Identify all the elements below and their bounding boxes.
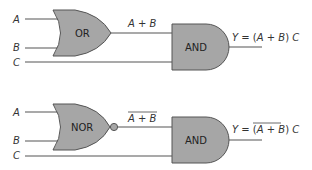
input-b-label: B	[13, 42, 20, 53]
nor-gate-label: NOR	[71, 122, 93, 133]
input-c-label-2: C	[13, 150, 20, 161]
circuit-or-and: A B C OR A + B AND Y = (A + B) C	[12, 10, 299, 70]
input-a-label: A	[12, 14, 20, 25]
input-a-label-2: A	[12, 107, 20, 118]
input-c-label: C	[13, 57, 20, 68]
input-b-label-2: B	[13, 135, 20, 146]
logic-diagram: A B C OR A + B AND Y = (A + B) C A B C N…	[0, 0, 312, 170]
nor-output-label: A + B	[127, 113, 157, 124]
and-gate-2-label: AND	[185, 135, 207, 146]
or-gate-label: OR	[75, 28, 90, 39]
or-output-label: A + B	[127, 18, 157, 29]
circuit-nor-and: A B C NOR A + B AND Y = (A + B) C	[12, 104, 299, 163]
inversion-bubble-icon	[110, 123, 117, 130]
and-gate-1-label: AND	[185, 42, 207, 53]
output-y2-expr: Y = (A + B) C	[232, 124, 299, 135]
output-y1-expr: Y = (A + B) C	[232, 32, 299, 43]
